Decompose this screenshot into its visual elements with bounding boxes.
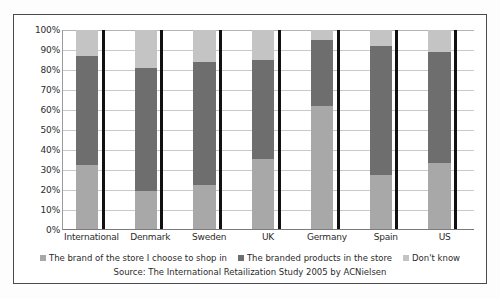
x-axis-tick-label: Germany xyxy=(297,232,356,250)
bar-segment-series-2[interactable] xyxy=(252,60,274,160)
stacked-bar[interactable] xyxy=(311,30,333,229)
plot-area xyxy=(62,30,474,230)
legend-item[interactable]: The brand of the store I choose to shop … xyxy=(40,253,227,263)
y-axis-tick-label: 90% xyxy=(41,45,60,55)
legend-swatch-icon xyxy=(40,255,46,261)
y-axis-tick-label: 100% xyxy=(35,25,60,35)
bar-category-slot xyxy=(180,30,239,229)
bar-segment-series-2[interactable] xyxy=(193,62,215,185)
chart-legend: The brand of the store I choose to shop … xyxy=(14,253,486,263)
x-axis-tick-label: US xyxy=(415,232,474,250)
bar-category-slot xyxy=(298,30,357,229)
x-axis: InternationalDenmarkSwedenUKGermanySpain… xyxy=(62,232,474,250)
bar-group xyxy=(63,30,474,229)
bar-segment-series-2[interactable] xyxy=(135,68,157,191)
bar-segment-series-2[interactable] xyxy=(311,40,333,106)
legend-label: Don't know xyxy=(412,253,460,263)
y-axis-tick-label: 10% xyxy=(41,205,60,215)
y-axis-tick-label: 40% xyxy=(41,145,60,155)
bar-category-slot xyxy=(63,30,122,229)
bar-category-slot xyxy=(415,30,474,229)
y-axis-tick-label: 50% xyxy=(41,125,60,135)
y-axis-tick-label: 60% xyxy=(41,105,60,115)
category-separator-line xyxy=(454,30,457,229)
category-separator-line xyxy=(278,30,281,229)
bar-segment-series-3[interactable] xyxy=(370,30,392,46)
bar-segment-series-1[interactable] xyxy=(252,159,274,229)
bar-segment-series-3[interactable] xyxy=(428,30,450,52)
bar-segment-series-1[interactable] xyxy=(370,175,392,229)
x-axis-tick-label: Spain xyxy=(356,232,415,250)
bar-segment-series-1[interactable] xyxy=(76,165,98,229)
bar-segment-series-1[interactable] xyxy=(428,163,450,229)
chart-page: 100%90%80%70%60%50%40%30%20%10%0% Intern… xyxy=(0,0,500,299)
bar-category-slot xyxy=(122,30,181,229)
category-separator-line xyxy=(337,30,340,229)
bar-segment-series-1[interactable] xyxy=(135,191,157,229)
bar-segment-series-1[interactable] xyxy=(193,185,215,229)
stacked-bar[interactable] xyxy=(76,30,98,229)
x-axis-tick-label: Sweden xyxy=(180,232,239,250)
y-axis-tick-label: 20% xyxy=(41,185,60,195)
stacked-bar[interactable] xyxy=(428,30,450,229)
legend-item[interactable]: Don't know xyxy=(403,253,460,263)
x-axis-tick-label: UK xyxy=(239,232,298,250)
x-axis-tick-label: International xyxy=(62,232,121,250)
bar-segment-series-3[interactable] xyxy=(193,30,215,62)
stacked-bar[interactable] xyxy=(370,30,392,229)
bar-segment-series-2[interactable] xyxy=(370,46,392,175)
legend-item[interactable]: The branded products in the store xyxy=(238,253,392,263)
y-axis: 100%90%80%70%60%50%40%30%20%10%0% xyxy=(18,30,62,230)
legend-swatch-icon xyxy=(238,255,244,261)
bar-segment-series-3[interactable] xyxy=(252,30,274,60)
x-axis-tick-label: Denmark xyxy=(121,232,180,250)
bar-segment-series-2[interactable] xyxy=(428,52,450,163)
source-note: Source: The International Retailization … xyxy=(14,267,486,277)
category-separator-line xyxy=(102,30,105,229)
chart-frame: 100%90%80%70%60%50%40%30%20%10%0% Intern… xyxy=(13,14,487,284)
plot-wrapper: 100%90%80%70%60%50%40%30%20%10%0% Intern… xyxy=(14,15,486,283)
legend-swatch-icon xyxy=(403,255,409,261)
bar-category-slot xyxy=(357,30,416,229)
y-axis-tick-label: 30% xyxy=(41,165,60,175)
legend-label: The branded products in the store xyxy=(247,253,392,263)
y-axis-tick-label: 80% xyxy=(41,65,60,75)
bar-segment-series-2[interactable] xyxy=(76,56,98,165)
stacked-bar[interactable] xyxy=(135,30,157,229)
category-separator-line xyxy=(219,30,222,229)
stacked-bar[interactable] xyxy=(193,30,215,229)
bar-segment-series-3[interactable] xyxy=(135,30,157,68)
bar-category-slot xyxy=(239,30,298,229)
stacked-bar[interactable] xyxy=(252,30,274,229)
category-separator-line xyxy=(395,30,398,229)
category-separator-line xyxy=(160,30,163,229)
bar-segment-series-3[interactable] xyxy=(311,30,333,40)
legend-label: The brand of the store I choose to shop … xyxy=(49,253,227,263)
bar-segment-series-1[interactable] xyxy=(311,106,333,229)
y-axis-tick-label: 0% xyxy=(46,225,60,235)
y-axis-tick-label: 70% xyxy=(41,85,60,95)
bar-segment-series-3[interactable] xyxy=(76,30,98,56)
